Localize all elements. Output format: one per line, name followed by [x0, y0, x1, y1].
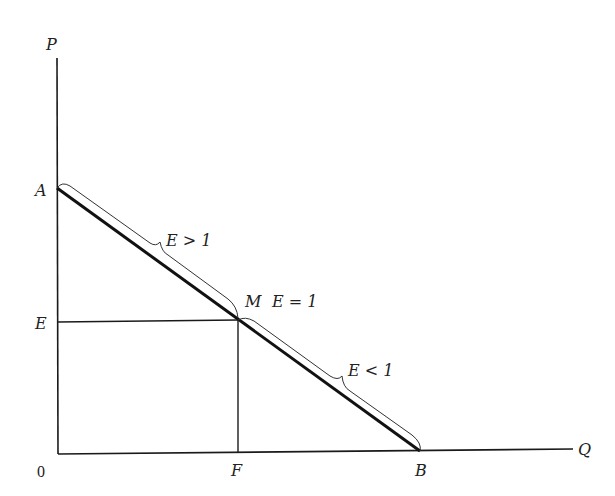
point-b-label: B [414, 461, 427, 480]
unit-elastic-annotation: E = 1 [271, 292, 317, 311]
point-a-label: A [33, 181, 47, 200]
x-axis [58, 449, 573, 454]
y-axis-label: P [45, 35, 57, 54]
point-e-label: E [34, 314, 47, 333]
x-axis-label: Q [578, 440, 591, 459]
point-f-label: F [230, 461, 243, 480]
elasticity-diagram: P Q 0 A E M F B E > 1 E = 1 E < 1 [0, 0, 615, 496]
origin-label: 0 [37, 463, 45, 480]
inelastic-annotation: E < 1 [347, 361, 393, 380]
price-line-em [57, 320, 238, 322]
y-axis [57, 58, 58, 454]
elastic-annotation: E > 1 [165, 231, 211, 250]
point-m-label: M [244, 292, 262, 311]
